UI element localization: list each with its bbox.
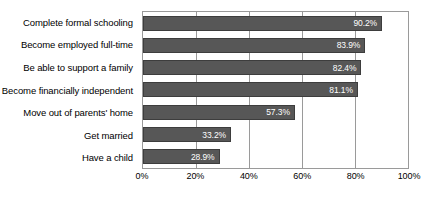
x-tick-label: 40%: [240, 171, 258, 181]
bars-layer: 90.2% 83.9% 82.4% 81.1%: [143, 12, 408, 168]
x-tick-label: 80%: [347, 171, 365, 181]
bar[interactable]: 82.4%: [143, 60, 361, 75]
bar-value-label: 83.9%: [337, 40, 365, 50]
bar-value-label: 82.4%: [333, 63, 361, 73]
category-label: Become employed full-time: [21, 39, 133, 50]
x-axis-labels: 0%20%40%60%80%100%: [142, 171, 409, 185]
x-tick-label: 20%: [187, 171, 205, 181]
bar[interactable]: 90.2%: [143, 16, 382, 31]
bar-row: 57.3%: [143, 101, 408, 123]
bar-row: 28.9%: [143, 146, 408, 168]
category-label: Get married: [84, 130, 133, 141]
bar-value-label: 33.2%: [202, 130, 230, 140]
plot-inner: 90.2% 83.9% 82.4% 81.1%: [143, 12, 408, 168]
bar-row: 90.2%: [143, 12, 408, 34]
bar-row: 33.2%: [143, 123, 408, 145]
category-label: Become financially independent: [2, 85, 133, 96]
bar-row: 83.9%: [143, 34, 408, 56]
category-axis-labels: Complete formal schooling Become employe…: [0, 11, 138, 169]
category-label: Have a child: [82, 152, 133, 163]
bar-value-label: 90.2%: [353, 18, 381, 28]
bar[interactable]: 83.9%: [143, 38, 365, 53]
category-label: Move out of parents' home: [23, 107, 133, 118]
bar-chart: Complete formal schooling Become employe…: [0, 0, 431, 198]
plot-area: 90.2% 83.9% 82.4% 81.1%: [142, 11, 409, 169]
x-tick-label: 100%: [398, 171, 421, 181]
bar[interactable]: 28.9%: [143, 149, 220, 164]
bar-row: 82.4%: [143, 57, 408, 79]
bar-value-label: 57.3%: [266, 107, 294, 117]
bar-value-label: 81.1%: [329, 85, 357, 95]
category-label: Complete formal schooling: [23, 17, 133, 28]
x-tick-label: 0%: [136, 171, 149, 181]
x-tick-label: 60%: [293, 171, 311, 181]
category-label-row: Be able to support a family: [0, 56, 138, 79]
bar[interactable]: 57.3%: [143, 105, 295, 120]
category-label-row: Get married: [0, 124, 138, 147]
category-label-row: Become financially independent: [0, 79, 138, 102]
category-label-row: Become employed full-time: [0, 34, 138, 57]
bar[interactable]: 33.2%: [143, 127, 231, 142]
category-label-row: Complete formal schooling: [0, 11, 138, 34]
category-label-row: Move out of parents' home: [0, 101, 138, 124]
category-label: Be able to support a family: [23, 62, 133, 73]
bar-row: 81.1%: [143, 79, 408, 101]
category-label-row: Have a child: [0, 146, 138, 169]
bar[interactable]: 81.1%: [143, 82, 358, 97]
bar-value-label: 28.9%: [191, 152, 219, 162]
